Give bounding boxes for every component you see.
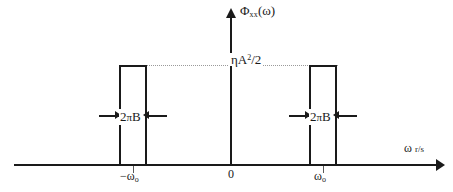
- positive-omega-label: ωo: [314, 170, 326, 184]
- origin-label: 0: [228, 168, 234, 180]
- y-axis-label-symbol: Φ: [240, 3, 250, 18]
- x-axis-arrowhead-icon: [436, 159, 445, 171]
- level-label-suffix: /2: [251, 52, 261, 67]
- bandwidth-label-positive: 2πB: [309, 109, 332, 125]
- bandwidth-right-arrow-shaft: [337, 115, 357, 117]
- bandwidth-label-negative: 2πB: [119, 109, 142, 125]
- positive-omega-symbol: ω: [314, 169, 322, 183]
- bandwidth-label-suffix: B: [322, 109, 331, 124]
- level-label: ηA2/2: [229, 53, 263, 66]
- x-axis-symbol: ω: [404, 141, 412, 155]
- x-axis-unit: r/s: [415, 144, 424, 154]
- y-axis-label-argument: (ω): [258, 3, 275, 18]
- spectrum-figure: Φxx(ω) ηA2/2 0 −ωo ωo ω r/s 2πB 2πB: [0, 0, 453, 192]
- bandwidth-right-arrowhead-icon: [333, 111, 339, 119]
- negative-omega-subscript: o: [135, 175, 139, 184]
- bandwidth-label-suffix: B: [132, 109, 141, 124]
- bandwidth-right-arrow-shaft: [147, 115, 167, 117]
- negative-omega-symbol: −ω: [120, 169, 135, 183]
- y-axis-arrowhead-icon: [226, 8, 236, 18]
- bandwidth-right-arrowhead-icon: [143, 111, 149, 119]
- negative-omega-label: −ωo: [120, 170, 139, 184]
- x-axis: [14, 164, 438, 166]
- bandwidth-annotation-positive: 2πB: [289, 109, 357, 125]
- positive-omega-subscript: o: [322, 175, 326, 184]
- y-axis-label: Φxx(ω): [240, 4, 275, 19]
- bandwidth-annotation-negative: 2πB: [99, 109, 167, 125]
- level-label-prefix: ηA: [231, 52, 247, 67]
- y-axis: [230, 16, 232, 165]
- y-axis-label-subscript: xx: [250, 10, 258, 19]
- x-axis-label: ω r/s: [404, 142, 424, 154]
